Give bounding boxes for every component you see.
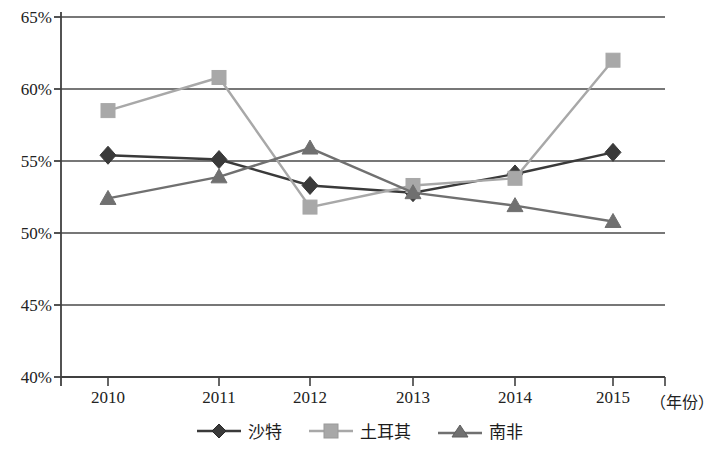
- legend-label-turkey: 土耳其: [360, 418, 411, 443]
- square-data-marker: [406, 178, 420, 192]
- y-axis-tick-label: 45%: [2, 296, 52, 316]
- x-axis-tick-label: 2010: [73, 388, 143, 408]
- square-marker-icon: [308, 423, 354, 439]
- x-axis-tick-label: 2011: [184, 388, 254, 408]
- line-chart: 65% 60% 55% 50% 45% 40% 2010 2011 2012 2…: [0, 0, 718, 451]
- chart-legend: 沙特 土耳其 南非: [0, 418, 718, 443]
- square-data-marker: [101, 104, 115, 118]
- y-axis-tick-label: 65%: [2, 8, 52, 28]
- triangle-data-marker: [302, 140, 318, 154]
- square-data-marker: [508, 171, 522, 185]
- series-2: [101, 53, 620, 214]
- diamond-data-marker: [302, 176, 318, 194]
- x-axis-tick-label: 2012: [275, 388, 345, 408]
- y-axis-tick-label: 55%: [2, 152, 52, 172]
- x-axis-tick-label: 2013: [378, 388, 448, 408]
- gridlines: [61, 17, 665, 305]
- series-line: [108, 60, 613, 207]
- series-line: [108, 148, 613, 221]
- diamond-data-marker: [211, 151, 227, 169]
- series-1: [100, 143, 621, 201]
- legend-item-saudi[interactable]: 沙特: [196, 418, 282, 443]
- diamond-marker-icon: [196, 423, 242, 439]
- x-axis-ticks: [108, 377, 665, 386]
- diamond-data-marker: [405, 184, 421, 202]
- triangle-data-marker: [405, 185, 421, 199]
- square-data-marker: [606, 53, 620, 67]
- legend-item-turkey[interactable]: 土耳其: [308, 418, 411, 443]
- square-data-marker: [212, 70, 226, 84]
- triangle-data-marker: [605, 213, 621, 227]
- triangle-data-marker: [100, 190, 116, 204]
- series-3: [100, 140, 621, 227]
- y-axis-tick-label: 50%: [2, 224, 52, 244]
- legend-label-saudi: 沙特: [248, 418, 282, 443]
- triangle-data-marker: [507, 198, 523, 212]
- series-line: [108, 152, 613, 192]
- triangle-marker-icon: [437, 423, 483, 439]
- y-axis-tick-label: 60%: [2, 80, 52, 100]
- legend-item-south-africa[interactable]: 南非: [437, 418, 523, 443]
- diamond-data-marker: [100, 146, 116, 164]
- x-axis-tick-label: 2015: [578, 388, 648, 408]
- x-axis-title: （年份）: [650, 389, 714, 413]
- plot-area: [0, 0, 718, 451]
- data-series-layer: [100, 53, 621, 227]
- legend-label-south-africa: 南非: [489, 418, 523, 443]
- y-axis-ticks: [54, 17, 61, 377]
- x-axis-tick-label: 2014: [480, 388, 550, 408]
- diamond-data-marker: [605, 143, 621, 161]
- square-data-marker: [303, 200, 317, 214]
- triangle-data-marker: [211, 169, 227, 183]
- y-axis-tick-label: 40%: [2, 368, 52, 388]
- diamond-data-marker: [507, 165, 523, 183]
